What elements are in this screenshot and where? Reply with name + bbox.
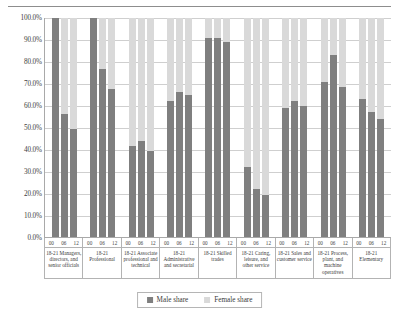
y-axis-tick-label: 60.0% xyxy=(24,102,42,110)
year-tick-label: 06 xyxy=(173,238,185,247)
bar-slot[interactable] xyxy=(185,18,192,237)
bar-male-share[interactable] xyxy=(368,112,375,237)
year-tick-label: 00 xyxy=(353,238,365,247)
category-label: 18-21 Skilled trades xyxy=(199,248,236,278)
bar-slot[interactable] xyxy=(262,18,269,237)
year-tick-row: 000612 xyxy=(199,238,236,248)
bar-group xyxy=(314,18,352,237)
bar-slot[interactable] xyxy=(61,18,68,237)
bar-slot[interactable] xyxy=(339,18,346,237)
bar-male-share[interactable] xyxy=(262,195,269,237)
bar-slot[interactable] xyxy=(205,18,212,237)
year-tick-label: 12 xyxy=(70,238,82,247)
bar-male-share[interactable] xyxy=(330,55,337,237)
y-axis-tick-label: 100.0% xyxy=(20,14,42,22)
category-axis-table: 00061218-21 Managers, directors, and sen… xyxy=(44,238,391,279)
legend-item[interactable]: Female share xyxy=(204,296,252,304)
bar-male-share[interactable] xyxy=(52,18,59,237)
year-tick-row: 000612 xyxy=(45,238,82,248)
bar-male-share[interactable] xyxy=(244,167,251,237)
bar-group xyxy=(45,18,83,237)
legend-label: Male share xyxy=(157,296,189,304)
y-axis-tick-label: 0.0% xyxy=(27,234,42,242)
bar-slot[interactable] xyxy=(90,18,97,237)
bar-male-share[interactable] xyxy=(223,42,230,237)
bar-male-share[interactable] xyxy=(214,38,221,237)
bar-slot[interactable] xyxy=(359,18,366,237)
year-tick-row: 000612 xyxy=(160,238,197,248)
bar-slot[interactable] xyxy=(108,18,115,237)
category-label: 18-21 Associate professional and technic… xyxy=(122,248,159,278)
year-tick-label: 00 xyxy=(314,238,326,247)
bar-male-share[interactable] xyxy=(185,95,192,237)
y-axis-tick-label: 40.0% xyxy=(24,146,42,154)
bar-groups xyxy=(45,18,391,237)
bar-slot[interactable] xyxy=(214,18,221,237)
bar-group xyxy=(83,18,121,237)
y-axis-tick-label: 50.0% xyxy=(24,124,42,132)
bar-male-share[interactable] xyxy=(205,38,212,237)
bar-male-share[interactable] xyxy=(176,92,183,237)
bar-slot[interactable] xyxy=(282,18,289,237)
bar-male-share[interactable] xyxy=(129,146,136,237)
bar-male-share[interactable] xyxy=(61,114,68,237)
bar-slot[interactable] xyxy=(129,18,136,237)
bar-slot[interactable] xyxy=(223,18,230,237)
bar-slot[interactable] xyxy=(291,18,298,237)
bar-slot[interactable] xyxy=(138,18,145,237)
y-axis-tick-label: 90.0% xyxy=(24,36,42,44)
bar-slot[interactable] xyxy=(330,18,337,237)
bar-group xyxy=(199,18,237,237)
bar-slot[interactable] xyxy=(244,18,251,237)
bar-group xyxy=(237,18,275,237)
year-tick-row: 000612 xyxy=(353,238,390,248)
bar-male-share[interactable] xyxy=(90,18,97,237)
category-cell: 00061218-21 Professional xyxy=(83,238,121,278)
year-tick-label: 00 xyxy=(199,238,211,247)
bar-slot[interactable] xyxy=(147,18,154,237)
category-label: 18-21 Process, plant, and machine operat… xyxy=(314,248,351,278)
bar-male-share[interactable] xyxy=(167,101,174,237)
bar-slot[interactable] xyxy=(52,18,59,237)
legend-swatch-icon xyxy=(204,297,210,303)
year-tick-label: 12 xyxy=(262,238,274,247)
category-cell: 00061218-21 Sales and customer service xyxy=(276,238,314,278)
year-tick-row: 000612 xyxy=(276,238,313,248)
plot-area xyxy=(44,18,391,238)
bar-group xyxy=(122,18,160,237)
y-axis-tick-label: 80.0% xyxy=(24,58,42,66)
y-axis-tick-label: 30.0% xyxy=(24,168,42,176)
y-axis-tick-label: 10.0% xyxy=(24,212,42,220)
legend-item[interactable]: Male share xyxy=(147,296,189,304)
year-tick-label: 00 xyxy=(45,238,57,247)
bar-chart: 100.0%90.0%80.0%70.0%60.0%50.0%40.0%30.0… xyxy=(0,14,399,286)
category-cell: 00061218-21 Caring, leisure, and other s… xyxy=(237,238,275,278)
category-label: 18-21 Sales and customer service xyxy=(276,248,313,278)
bar-slot[interactable] xyxy=(167,18,174,237)
bar-male-share[interactable] xyxy=(138,141,145,237)
bar-male-share[interactable] xyxy=(300,106,307,237)
bar-male-share[interactable] xyxy=(253,189,260,237)
bar-male-share[interactable] xyxy=(99,69,106,237)
bar-male-share[interactable] xyxy=(377,119,384,237)
bar-male-share[interactable] xyxy=(321,82,328,237)
bar-slot[interactable] xyxy=(300,18,307,237)
year-tick-row: 000612 xyxy=(314,238,351,248)
bar-slot[interactable] xyxy=(321,18,328,237)
bar-male-share[interactable] xyxy=(70,129,77,237)
bar-group xyxy=(160,18,198,237)
bar-slot[interactable] xyxy=(368,18,375,237)
bar-slot[interactable] xyxy=(377,18,384,237)
bar-slot[interactable] xyxy=(253,18,260,237)
bar-slot[interactable] xyxy=(70,18,77,237)
y-axis-tick-label: 20.0% xyxy=(24,190,42,198)
bar-male-share[interactable] xyxy=(291,101,298,237)
bar-male-share[interactable] xyxy=(339,87,346,237)
bar-male-share[interactable] xyxy=(359,99,366,237)
bar-slot[interactable] xyxy=(176,18,183,237)
bar-slot[interactable] xyxy=(99,18,106,237)
bar-male-share[interactable] xyxy=(108,89,115,237)
y-axis: 100.0%90.0%80.0%70.0%60.0%50.0%40.0%30.0… xyxy=(0,14,44,238)
bar-male-share[interactable] xyxy=(282,108,289,237)
bar-male-share[interactable] xyxy=(147,151,154,238)
